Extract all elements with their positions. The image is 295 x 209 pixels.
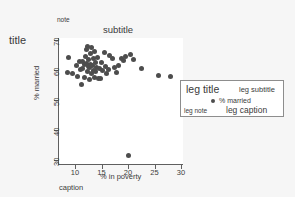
chart-caption: caption	[59, 183, 83, 192]
scatter-point	[126, 153, 131, 158]
scatter-point	[93, 60, 98, 65]
scatter-point	[168, 74, 173, 79]
scatter-point	[79, 82, 84, 87]
scatter-point	[110, 56, 115, 61]
x-tick-label: 10	[65, 168, 85, 177]
scatter-point	[114, 70, 119, 75]
legend-subtitle: leg subtitle	[239, 85, 275, 94]
scatter-point	[66, 55, 71, 60]
x-tick-label: 25	[145, 168, 165, 177]
scatter-point	[106, 67, 111, 72]
chart-title: title	[9, 34, 26, 46]
legend-box[interactable]: leg title leg subtitle % married leg not…	[180, 80, 284, 117]
scatter-point	[131, 57, 136, 62]
chart-subtitle: subtitle	[103, 24, 133, 35]
scatter-point	[75, 74, 80, 79]
y-tick-label: 40	[52, 128, 61, 136]
scatter-point	[102, 50, 107, 55]
y-tick-label: 50	[52, 98, 61, 106]
y-tick-label: 60	[52, 68, 61, 76]
x-tick-label: 30	[171, 168, 191, 177]
legend-title: leg title	[186, 83, 219, 95]
legend-marker-icon	[211, 99, 215, 103]
y-tick-label: 70	[52, 38, 61, 46]
scatter-point	[92, 49, 97, 54]
x-axis-line	[58, 164, 183, 165]
scatter-point	[95, 55, 100, 60]
x-axis-title: % in poverty	[100, 172, 141, 181]
scatter-point	[82, 75, 87, 80]
y-tick-label: 30	[52, 158, 61, 166]
y-axis-title: % married	[32, 66, 41, 100]
chart-note: note	[57, 16, 70, 23]
legend-caption: leg caption	[226, 105, 267, 115]
figure-canvas: 30405060701015202530 title subtitle note…	[0, 0, 295, 197]
legend-note: leg note	[184, 107, 207, 114]
legend-key-label: % married	[219, 97, 251, 104]
scatter-point	[98, 76, 103, 81]
scatter-point	[65, 70, 70, 75]
